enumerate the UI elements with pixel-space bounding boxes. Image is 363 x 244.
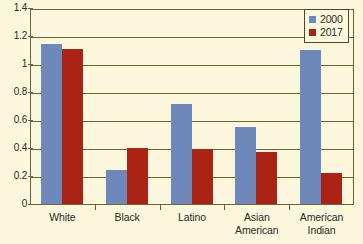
y-axis-tick-label: 0.4 <box>0 143 27 153</box>
x-axis-label-american-indian: AmericanIndian <box>289 211 354 236</box>
y-axis-tick-label: 0.8 <box>0 87 27 97</box>
x-axis-label-line: Indian <box>289 224 354 237</box>
x-axis-tick-mark <box>160 205 161 210</box>
x-axis-label-line: White <box>30 211 95 224</box>
x-axis-label-line: American <box>289 211 354 224</box>
x-axis-tick-mark <box>289 205 290 210</box>
bar-2017-white <box>62 49 83 204</box>
y-axis-tick-label: 1.4 <box>0 3 27 13</box>
bar-group <box>31 10 96 204</box>
y-axis-tick-mark <box>28 92 33 93</box>
bar-2000-latino <box>171 104 192 204</box>
x-axis-tick-mark <box>224 205 225 210</box>
y-axis-tick-mark <box>28 204 33 205</box>
x-axis-label-latino: Latino <box>160 211 225 224</box>
y-axis-tick-label: 0.6 <box>0 115 27 125</box>
y-axis-tick-mark <box>28 148 33 149</box>
y-axis-tick-label: 0 <box>0 199 27 209</box>
legend-label: 2017 <box>320 27 343 38</box>
y-axis-tick-mark <box>28 120 33 121</box>
x-axis-label-line: Latino <box>160 211 225 224</box>
bar-2017-american-indian <box>321 173 342 204</box>
x-axis-label-line: American <box>224 224 289 237</box>
bar-2017-asian-american <box>256 152 277 205</box>
x-axis-label-asian-american: AsianAmerican <box>224 211 289 236</box>
bar-group <box>225 10 290 204</box>
x-axis-label-line: Asian <box>224 211 289 224</box>
legend-item-2017[interactable]: 2017 <box>309 26 343 39</box>
bar-2017-black <box>127 148 148 204</box>
bar-chart: 00.20.40.60.811.21.4 20002017 WhiteBlack… <box>0 0 363 244</box>
legend-item-2000[interactable]: 2000 <box>309 13 343 26</box>
x-axis-tick-mark <box>95 205 96 210</box>
x-axis-label-line: Black <box>95 211 160 224</box>
y-axis-tick-mark <box>28 8 33 9</box>
y-axis-tick-label: 0.2 <box>0 171 27 181</box>
y-axis: 00.20.40.60.811.21.4 <box>0 0 27 244</box>
y-axis-tick-mark <box>28 176 33 177</box>
bar-2000-white <box>41 44 62 204</box>
bar-2000-black <box>106 170 127 204</box>
bar-group <box>161 10 226 204</box>
legend-swatch-icon <box>309 29 316 36</box>
bar-group <box>96 10 161 204</box>
bar-2000-american-indian <box>300 50 321 204</box>
legend-swatch-icon <box>309 16 316 23</box>
y-axis-tick-mark <box>28 64 33 65</box>
bar-2000-asian-american <box>235 127 256 204</box>
y-axis-tick-mark <box>28 36 33 37</box>
y-axis-tick-label: 1 <box>0 59 27 69</box>
x-axis-label-black: Black <box>95 211 160 224</box>
x-axis-label-white: White <box>30 211 95 224</box>
bar-2017-latino <box>192 149 213 204</box>
chart-legend: 20002017 <box>304 9 349 43</box>
y-axis-tick-label: 1.2 <box>0 31 27 41</box>
legend-label: 2000 <box>320 14 343 25</box>
